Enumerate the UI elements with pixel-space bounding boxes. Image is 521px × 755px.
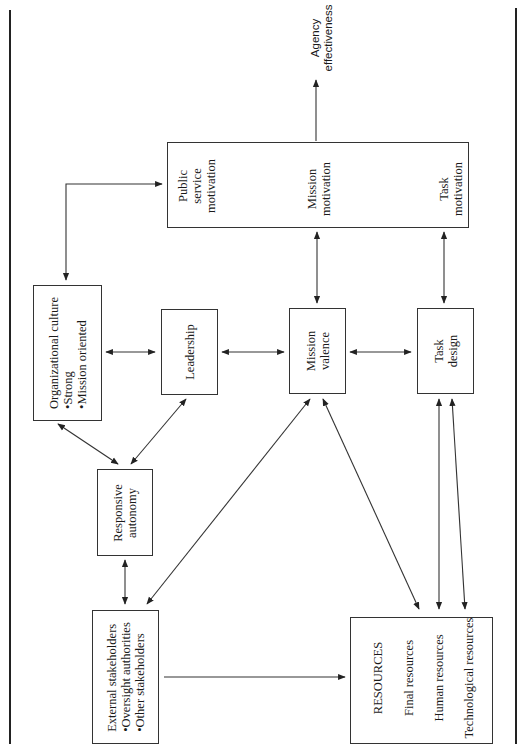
ext-stakeholders-title: External stakeholders bbox=[105, 622, 119, 732]
resources-box: RESOURCES Final resources Human resource… bbox=[350, 617, 493, 744]
task-design-label: Task design bbox=[432, 335, 460, 368]
leadership-label: Leadership bbox=[183, 324, 197, 380]
psm-line1: Public bbox=[176, 159, 190, 213]
psm-line2: service bbox=[190, 159, 204, 213]
ra-line1: Responsive bbox=[111, 484, 125, 542]
responsive-autonomy-box: Responsive autonomy bbox=[97, 469, 153, 556]
external-stakeholders-text: External stakeholders •Oversight authori… bbox=[105, 622, 147, 732]
arrow-culture-psm bbox=[66, 184, 162, 280]
mm-line2: motivation bbox=[319, 162, 333, 216]
mission-valence-label: Mission valence bbox=[304, 331, 332, 371]
mm-line1: Mission bbox=[305, 162, 319, 216]
motivation-box: Public service motivation Mission motiva… bbox=[167, 142, 469, 228]
task-motivation-label: Task motivation bbox=[437, 162, 465, 216]
mv-line2: valence bbox=[318, 331, 332, 371]
organizational-culture-text: Organizational culture •Strong •Mission … bbox=[47, 297, 89, 409]
agency-line2: effectiveness bbox=[322, 5, 335, 72]
resources-item-technological: Technological resources bbox=[462, 618, 476, 739]
psm-line3: motivation bbox=[204, 159, 218, 213]
mission-valence-box: Mission valence bbox=[289, 308, 346, 394]
arrow-valence-resources bbox=[323, 399, 419, 609]
ra-line2: autonomy bbox=[125, 484, 139, 542]
org-culture-item-strong: •Strong bbox=[61, 297, 75, 409]
responsive-autonomy-label: Responsive autonomy bbox=[111, 484, 139, 542]
organizational-culture-box: Organizational culture •Strong •Mission … bbox=[33, 285, 102, 421]
ext-item-oversight: •Oversight authorities bbox=[119, 622, 133, 732]
mv-line1: Mission bbox=[304, 331, 318, 371]
resources-item-human: Human resources bbox=[432, 634, 446, 721]
public-service-motivation-label: Public service motivation bbox=[176, 159, 218, 213]
arrow-taskdesign-tech bbox=[452, 399, 465, 609]
arrow-valence-stakeholders bbox=[147, 399, 310, 604]
mission-motivation-label: Mission motivation bbox=[305, 162, 333, 216]
td-line1: Task bbox=[432, 335, 446, 368]
org-culture-title: Organizational culture bbox=[47, 297, 61, 409]
leadership-box: Leadership bbox=[161, 309, 218, 395]
resources-item-final: Final resources bbox=[402, 640, 416, 716]
arrow-culture-autonomy bbox=[58, 424, 118, 464]
task-design-box: Task design bbox=[417, 308, 474, 394]
td-line2: design bbox=[446, 335, 460, 368]
org-culture-item-mission-oriented: •Mission oriented bbox=[75, 297, 89, 409]
tm-line1: Task bbox=[437, 162, 451, 216]
agency-effectiveness-label: Agency effectiveness bbox=[309, 5, 335, 72]
external-stakeholders-box: External stakeholders •Oversight authori… bbox=[92, 610, 159, 744]
agency-line1: Agency bbox=[309, 5, 322, 72]
tm-line2: motivation bbox=[451, 162, 465, 216]
resources-title: RESOURCES bbox=[371, 642, 385, 714]
ext-item-other: •Other stakeholders bbox=[133, 622, 147, 732]
arrow-leadership-autonomy bbox=[131, 399, 186, 464]
